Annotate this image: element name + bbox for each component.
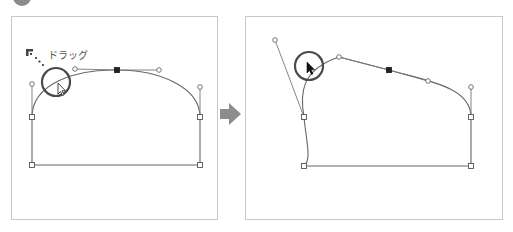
handle-point xyxy=(73,67,78,72)
left-path xyxy=(32,70,200,165)
handle-point xyxy=(198,85,203,90)
handle-point xyxy=(337,55,342,60)
drag-label: ドラッグ xyxy=(48,49,88,61)
handle-point xyxy=(30,82,35,87)
bezier-edit-figure: ドラッグ xyxy=(0,0,513,232)
handle-point xyxy=(157,68,162,73)
handle-point xyxy=(426,79,431,84)
handle-point xyxy=(273,38,278,43)
handle-point xyxy=(469,85,474,90)
cursor-arrow-filled-icon xyxy=(307,62,315,75)
right-anchors xyxy=(302,68,474,169)
right-arrow-icon xyxy=(220,103,241,125)
left-handles xyxy=(30,67,203,117)
corner-bracket-icon xyxy=(26,49,33,56)
drag-trail-dots xyxy=(35,57,44,66)
right-path xyxy=(302,57,471,166)
diagram-canvas: ドラッグ xyxy=(0,0,513,232)
